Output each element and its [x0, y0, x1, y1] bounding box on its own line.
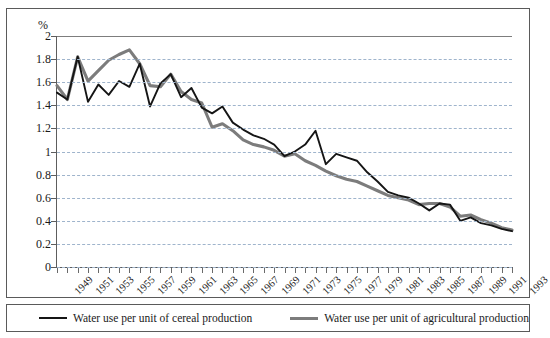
y-axis-tick-mark [51, 36, 57, 37]
chart-frame: % 00.20.40.60.811.21.41.61.82 1949195119… [6, 8, 530, 298]
y-axis-tick-label: 0.4 [36, 215, 51, 227]
y-axis-tick-mark [51, 267, 57, 268]
x-axis-tick-label: 1959 [176, 274, 199, 297]
x-axis-tick-label: 1971 [300, 274, 323, 297]
x-axis-tick-label: 1989 [486, 274, 509, 297]
x-axis-tick-label: 1973 [320, 274, 343, 297]
legend-label-cereal: Water use per unit of cereal production [73, 312, 252, 324]
gridline [57, 198, 512, 199]
x-axis-tick-label: 1961 [196, 274, 219, 297]
y-axis-tick-mark [51, 105, 57, 106]
chart-legend: Water use per unit of cereal production … [6, 304, 530, 332]
gridline [57, 152, 512, 153]
x-axis-tick-label: 1993 [527, 274, 550, 297]
y-axis-tick-mark [51, 244, 57, 245]
x-axis-tick-label: 1987 [465, 274, 488, 297]
x-axis-tick-label: 1963 [217, 274, 240, 297]
legend-item-agricultural: Water use per unit of agricultural produ… [290, 312, 529, 324]
legend-label-agricultural: Water use per unit of agricultural produ… [324, 312, 529, 324]
y-axis-tick-mark [51, 175, 57, 176]
x-axis-tick-label: 1977 [362, 274, 385, 297]
x-axis-tick-label: 1965 [238, 274, 261, 297]
x-axis-tick-label: 1981 [403, 274, 426, 297]
y-axis-tick-label: 0.2 [36, 238, 51, 250]
x-axis-tick-label: 1953 [114, 274, 137, 297]
x-axis-tick-label: 1951 [93, 274, 116, 297]
gridline [57, 128, 512, 129]
x-axis-tick-label: 1957 [155, 274, 178, 297]
plot-area [57, 36, 512, 267]
y-axis-tick-mark [51, 82, 57, 83]
x-axis-tick-label: 1985 [444, 274, 467, 297]
y-axis-tick-label: 0.8 [36, 169, 51, 181]
x-axis-tick-label: 1967 [258, 274, 281, 297]
x-axis-tick-label: 1975 [341, 274, 364, 297]
y-axis-tick-mark [51, 198, 57, 199]
y-axis-tick-mark [51, 152, 57, 153]
gridline [57, 105, 512, 106]
x-axis-tick-label: 1991 [506, 274, 529, 297]
gridline [57, 175, 512, 176]
legend-item-cereal: Water use per unit of cereal production [39, 312, 252, 324]
gridline [57, 59, 512, 60]
y-axis-tick-labels: 00.20.40.60.811.21.41.61.82 [7, 9, 51, 275]
y-axis-tick-label: 1.4 [36, 99, 51, 111]
y-axis-tick-label: 1.8 [36, 53, 51, 65]
legend-swatch-cereal-icon [39, 317, 67, 319]
x-axis-tick-label: 1979 [382, 274, 405, 297]
gridline [57, 221, 512, 222]
y-axis-tick-label: 1.6 [36, 76, 51, 88]
x-axis-tick-label: 1949 [72, 274, 95, 297]
x-axis-tick-label: 1955 [134, 274, 157, 297]
y-axis-tick-label: 1.2 [36, 122, 51, 134]
x-axis-tick-label: 1969 [279, 274, 302, 297]
y-axis-tick-mark [51, 128, 57, 129]
y-axis-tick-label: 0.6 [36, 192, 51, 204]
x-axis-tick-label: 1983 [424, 274, 447, 297]
gridline [57, 36, 512, 37]
y-axis-tick-mark [51, 221, 57, 222]
gridline [57, 82, 512, 83]
y-axis-tick-mark [51, 59, 57, 60]
legend-swatch-agricultural-icon [290, 317, 318, 320]
gridline [57, 244, 512, 245]
